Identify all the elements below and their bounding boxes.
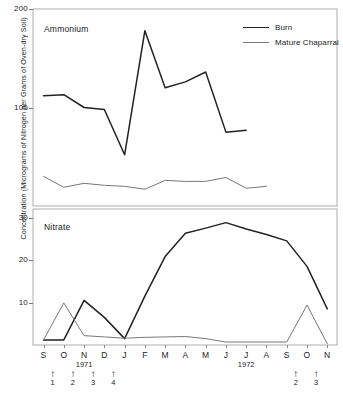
series-line-nitrate-mature-chaparral	[44, 303, 328, 344]
series-line-nitrate-burn	[44, 223, 328, 340]
series-line-ammonium-mature-chaparral	[44, 176, 267, 189]
data-series-layer	[0, 0, 343, 395]
series-line-ammonium-burn	[44, 31, 247, 155]
chart-root: Concentration (Micrograms of Nitrogen pe…	[0, 0, 343, 395]
